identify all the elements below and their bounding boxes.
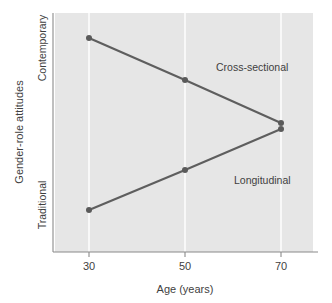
chart-figure: Cross-sectional Longitudinal 30 50 70 Ag… — [0, 0, 332, 303]
y-category-label-contemporary: Contemporary — [36, 14, 48, 81]
line-chart-canvas: Cross-sectional Longitudinal 30 50 70 Ag… — [0, 0, 332, 303]
x-tick-label-30: 30 — [83, 260, 95, 272]
data-point-cross-sectional-50 — [182, 77, 188, 83]
x-axis-title: Age (years) — [157, 283, 214, 295]
data-point-cross-sectional-70 — [278, 120, 284, 126]
series-annotation-cross-sectional: Cross-sectional — [216, 61, 288, 73]
data-point-longitudinal-50 — [182, 167, 188, 173]
y-axis-title: Gender-role attitudes — [13, 80, 25, 184]
y-category-label-traditional: Traditional — [36, 181, 48, 230]
x-tick-label-50: 50 — [179, 260, 191, 272]
series-annotation-longitudinal: Longitudinal — [234, 174, 291, 186]
data-point-longitudinal-30 — [86, 207, 92, 213]
x-tick-label-70: 70 — [275, 260, 287, 272]
data-point-cross-sectional-30 — [86, 35, 92, 41]
data-point-longitudinal-70 — [278, 126, 284, 132]
